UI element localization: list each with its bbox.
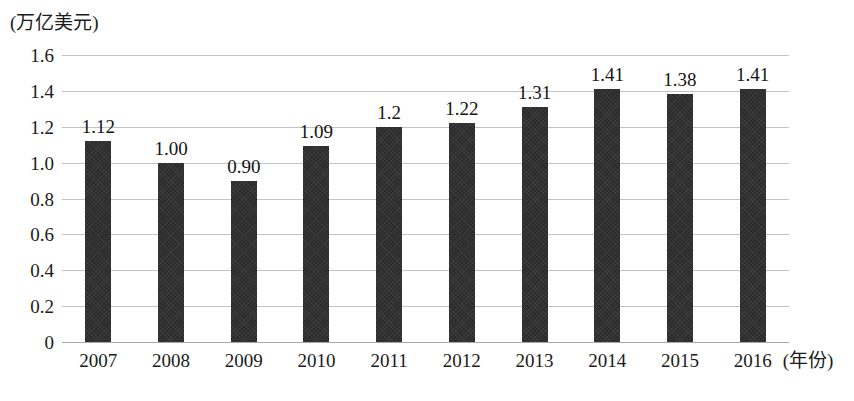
bar-value-label: 1.12 [82, 117, 115, 136]
x-axis-tick-label: 2012 [443, 351, 481, 370]
bar [376, 127, 402, 342]
bar [158, 163, 184, 342]
plot-area: 00.20.40.60.81.01.21.41.61.1220071.00200… [62, 55, 789, 342]
x-axis-tick-label: 2014 [588, 351, 626, 370]
y-axis-tick-label: 0.8 [30, 189, 54, 208]
x-axis-tick-label: 2007 [79, 351, 117, 370]
y-axis-tick-label: 1.6 [30, 46, 54, 65]
y-axis-unit-label: (万亿美元) [10, 7, 99, 34]
x-axis-tick-label: 2009 [225, 351, 263, 370]
bar-value-label: 1.41 [591, 65, 624, 84]
x-axis-line: 0 [62, 342, 789, 343]
bar-value-label: 1.31 [518, 83, 551, 102]
bar [449, 123, 475, 342]
bar [740, 89, 766, 342]
bar [231, 181, 257, 342]
bar-chart-figure: (万亿美元) 00.20.40.60.81.01.21.41.61.122007… [0, 0, 854, 401]
x-axis-tick-label: 2010 [297, 351, 335, 370]
bar-value-label: 1.00 [154, 139, 187, 158]
x-axis-tick-label: 2013 [516, 351, 554, 370]
bar [667, 94, 693, 342]
y-axis-tick-label: 0 [45, 333, 55, 352]
bar-value-label: 0.90 [227, 157, 260, 176]
y-axis-tick-label: 1.4 [30, 81, 54, 100]
x-axis-tick-label: 2015 [661, 351, 699, 370]
y-axis-tick-label: 0.2 [30, 297, 54, 316]
bar-value-label: 1.09 [300, 122, 333, 141]
bar-value-label: 1.38 [663, 70, 696, 89]
gridline: 1.4 [62, 91, 789, 92]
x-axis-tick-label: 2008 [152, 351, 190, 370]
y-axis-tick-label: 0.6 [30, 225, 54, 244]
bar-value-label: 1.41 [736, 65, 769, 84]
x-axis-tick-label: 2016 [734, 351, 772, 370]
bar-value-label: 1.2 [377, 103, 401, 122]
bar-value-label: 1.22 [445, 99, 478, 118]
x-axis-tick-label: 2011 [370, 351, 407, 370]
gridline: 1.6 [62, 55, 789, 56]
y-axis-tick-label: 1.0 [30, 153, 54, 172]
bar [303, 146, 329, 342]
y-axis-tick-label: 1.2 [30, 117, 54, 136]
bar [85, 141, 111, 342]
bar [594, 89, 620, 342]
bar [522, 107, 548, 342]
x-axis-unit-label: (年份) [783, 351, 834, 370]
y-axis-tick-label: 0.4 [30, 261, 54, 280]
